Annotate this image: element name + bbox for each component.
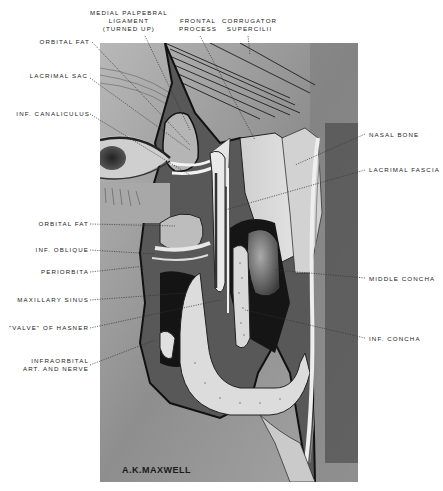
leader-lines — [0, 0, 443, 491]
